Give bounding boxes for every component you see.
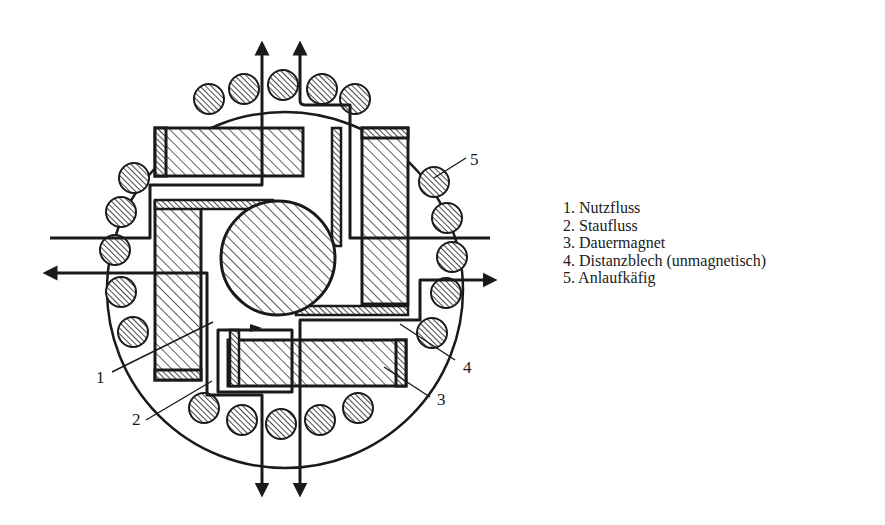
- shaft: [221, 201, 335, 315]
- callout-1: 1: [96, 368, 105, 387]
- legend-item-distanzblech: 4. Distanzblech (unmagnetisch): [563, 252, 766, 270]
- legend-item-anlaufkaefig: 5. Anlaufkäfig: [563, 269, 766, 287]
- legend-item-staufluss: 2. Staufluss: [563, 217, 766, 235]
- callout-3: 3: [437, 390, 446, 409]
- legend-item-nutzfluss: 1. Nutzfluss: [563, 199, 766, 217]
- callout-5: 5: [470, 150, 479, 169]
- callout-2: 2: [132, 410, 141, 429]
- callout-4: 4: [463, 358, 472, 377]
- legend-item-dauermagnet: 3. Dauermagnet: [563, 234, 766, 252]
- legend: 1. Nutzfluss 2. Staufluss 3. Dauermagnet…: [563, 199, 766, 287]
